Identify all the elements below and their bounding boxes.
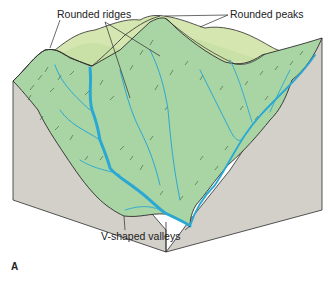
label-rounded-peaks: Rounded peaks	[230, 9, 304, 20]
panel-label: A	[11, 262, 18, 272]
label-v-shaped-valleys: V-shaped valleys	[101, 231, 180, 242]
landscape-block-diagram	[0, 0, 331, 285]
label-rounded-ridges: Rounded ridges	[57, 9, 131, 20]
